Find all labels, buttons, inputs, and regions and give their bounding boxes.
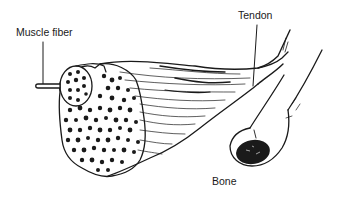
muscle-fiber-rod xyxy=(36,84,60,88)
tendon-leader-line xyxy=(253,25,257,86)
label-tendon: Tendon xyxy=(238,10,272,21)
label-bone: Bone xyxy=(212,176,237,187)
label-muscle-fiber: Muscle fiber xyxy=(16,27,73,38)
tendon xyxy=(258,30,290,84)
muscle-diagram: Muscle fiber Tendon Bone xyxy=(0,0,338,199)
